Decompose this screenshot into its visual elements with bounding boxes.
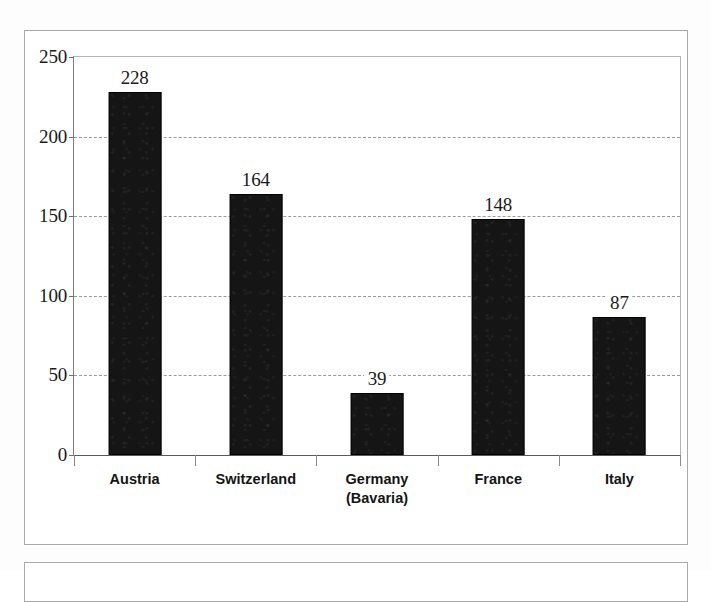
y-axis-tick-label: 250 bbox=[39, 46, 67, 68]
bar[interactable]: 164 bbox=[229, 194, 282, 455]
x-axis-category-label: France bbox=[474, 470, 522, 489]
x-axis-category-label: Austria bbox=[110, 470, 160, 489]
y-axis-tick-label: 150 bbox=[39, 205, 67, 227]
bar[interactable]: 148 bbox=[472, 219, 525, 455]
bar-group: 228 bbox=[74, 57, 195, 455]
plot-area: 050100150200250 2281643914887 AustriaSwi… bbox=[73, 56, 681, 456]
x-axis-category-label: Germany (Bavaria) bbox=[346, 470, 409, 508]
bar-group: 164 bbox=[195, 57, 316, 455]
x-axis-category-label: Italy bbox=[605, 470, 634, 489]
x-axis-tick-mark bbox=[316, 455, 317, 466]
y-axis-tick-label: 0 bbox=[58, 444, 67, 466]
bar[interactable]: 39 bbox=[350, 393, 403, 455]
bar-value-label: 228 bbox=[118, 67, 152, 89]
x-axis-tick-mark bbox=[195, 455, 196, 466]
y-axis-tick-label: 200 bbox=[39, 125, 67, 147]
bar[interactable]: 228 bbox=[108, 92, 161, 455]
bar-value-label: 39 bbox=[365, 368, 390, 390]
bar-group: 148 bbox=[438, 57, 559, 455]
x-axis-tick-mark bbox=[74, 455, 75, 466]
bar[interactable]: 87 bbox=[593, 317, 646, 456]
bar-value-label: 148 bbox=[481, 194, 515, 216]
bar-value-label: 87 bbox=[607, 292, 632, 314]
bar-group: 39 bbox=[316, 57, 437, 455]
bar-value-label: 164 bbox=[239, 169, 273, 191]
figure-frame: 050100150200250 2281643914887 AustriaSwi… bbox=[24, 30, 688, 545]
y-axis-tick-label: 50 bbox=[48, 364, 67, 386]
x-axis-tick-mark bbox=[559, 455, 560, 466]
bar-group: 87 bbox=[559, 57, 680, 455]
caption-frame bbox=[24, 562, 688, 602]
bar-chart: 050100150200250 2281643914887 AustriaSwi… bbox=[25, 31, 689, 546]
x-axis-tick-mark bbox=[438, 455, 439, 466]
y-axis-tick-label: 100 bbox=[39, 284, 67, 306]
x-axis-category-label: Switzerland bbox=[216, 470, 297, 489]
x-axis-tick-mark bbox=[680, 455, 681, 466]
